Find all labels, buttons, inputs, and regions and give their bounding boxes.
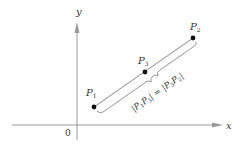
brace-p3-p2 [153, 42, 196, 76]
label-p1: P1 [85, 87, 97, 99]
label-p2: P2 [189, 21, 201, 33]
x-axis-label: x [226, 120, 232, 131]
y-axis-arrow-icon [75, 22, 80, 33]
label-p3: P3 [137, 55, 149, 67]
origin-label: 0 [65, 128, 71, 138]
point-p3 [143, 70, 148, 75]
x-axis-arrow-icon [212, 123, 223, 128]
point-p1 [92, 105, 97, 110]
diagram-canvas: x y 0 P1 P3 P2 |P1P3| = |P3P2| [0, 0, 243, 147]
point-p2 [191, 36, 196, 41]
svg-text:|P1P3| = |P3P2|: |P1P3| = |P3P2| [129, 71, 185, 115]
equation-label: |P1P3| = |P3P2| [129, 71, 185, 115]
y-axis-label: y [75, 6, 82, 17]
